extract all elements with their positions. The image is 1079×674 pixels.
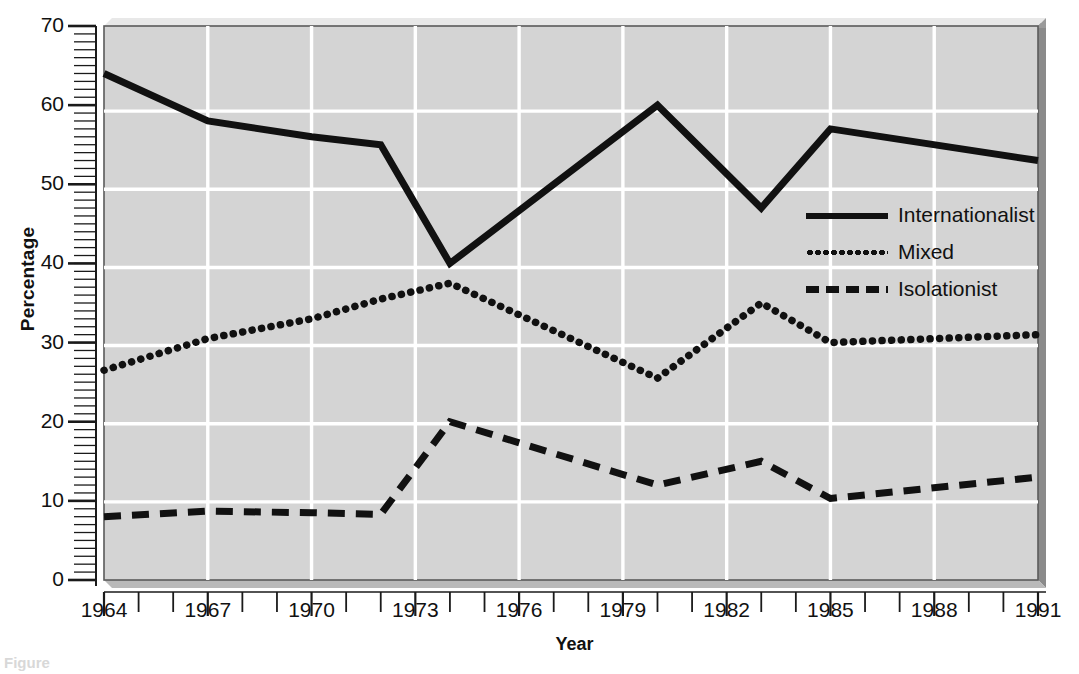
x-tick-label: 1970 xyxy=(267,598,357,622)
x-tick-label: 1973 xyxy=(370,598,460,622)
legend-swatch-dashed-line-icon xyxy=(806,282,888,296)
legend-item-mixed[interactable]: Mixed xyxy=(806,233,1046,270)
chart-legend: Internationalist Mixed Isolationist xyxy=(806,196,1046,307)
figure-caption: Figure xyxy=(4,654,50,671)
x-tick-label: 1991 xyxy=(993,598,1079,622)
x-tick-label: 1988 xyxy=(889,598,979,622)
y-axis-title: Percentage xyxy=(17,209,39,349)
x-tick-label: 1964 xyxy=(59,598,149,622)
legend-item-isolationist[interactable]: Isolationist xyxy=(806,270,1046,307)
x-tick-label: 1967 xyxy=(163,598,253,622)
legend-label-mixed: Mixed xyxy=(898,240,954,264)
legend-item-internationalist[interactable]: Internationalist xyxy=(806,196,1046,233)
figure-line-chart: 010203040506070 196419671970197319761979… xyxy=(0,0,1079,674)
x-axis-title: Year xyxy=(104,634,1045,655)
x-tick-label: 1979 xyxy=(578,598,668,622)
legend-swatch-solid-line-icon xyxy=(806,208,888,222)
legend-swatch-dotted-line-icon xyxy=(806,245,888,259)
x-tick-label: 1982 xyxy=(682,598,772,622)
legend-label-isolationist: Isolationist xyxy=(898,277,997,301)
x-tick-label: 1976 xyxy=(474,598,564,622)
x-tick-label: 1985 xyxy=(785,598,875,622)
legend-label-internationalist: Internationalist xyxy=(898,203,1035,227)
x-axis-tick-labels: 1964196719701973197619791982198519881991 xyxy=(0,0,1079,674)
